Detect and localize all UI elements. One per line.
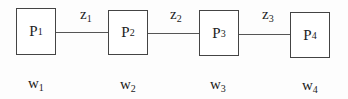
- weight-label: w1: [28, 75, 44, 93]
- weight-label: w4: [302, 77, 318, 95]
- label-subscript: 2: [131, 83, 136, 94]
- label-subscript: 1: [39, 82, 44, 93]
- label-main: P: [212, 25, 220, 42]
- edge-label: z3: [262, 6, 274, 24]
- label-main: P: [303, 27, 311, 44]
- label-subscript: 4: [313, 84, 318, 95]
- label-main: w: [210, 76, 221, 92]
- edge-label: z1: [80, 6, 92, 24]
- label-subscript: 2: [130, 27, 135, 38]
- edge-line: [148, 33, 199, 34]
- weight-label: w3: [210, 76, 226, 94]
- label-subscript: 3: [221, 28, 226, 39]
- node-box: P4: [290, 12, 330, 58]
- edge-label: z2: [170, 6, 182, 24]
- label-main: z: [262, 6, 269, 22]
- label-main: P: [29, 23, 37, 40]
- edge-line: [56, 32, 108, 33]
- label-subscript: 2: [177, 13, 182, 24]
- label-main: w: [120, 76, 131, 92]
- node-box: P1: [16, 8, 56, 55]
- node-box: P2: [108, 10, 148, 55]
- label-subscript: 3: [221, 83, 226, 94]
- label-subscript: 1: [38, 26, 43, 37]
- label-main: z: [170, 6, 177, 22]
- label-subscript: 3: [269, 13, 274, 24]
- label-main: z: [80, 6, 87, 22]
- weight-label: w2: [120, 76, 136, 94]
- node-box: P3: [199, 10, 239, 56]
- edge-line: [239, 34, 290, 35]
- label-main: P: [121, 24, 129, 41]
- label-subscript: 1: [87, 13, 92, 24]
- label-main: w: [28, 75, 39, 91]
- diagram-canvas: z1z2z3P1P2P3P4w1w2w3w4: [0, 0, 348, 99]
- label-main: w: [302, 77, 313, 93]
- label-subscript: 4: [312, 30, 317, 41]
